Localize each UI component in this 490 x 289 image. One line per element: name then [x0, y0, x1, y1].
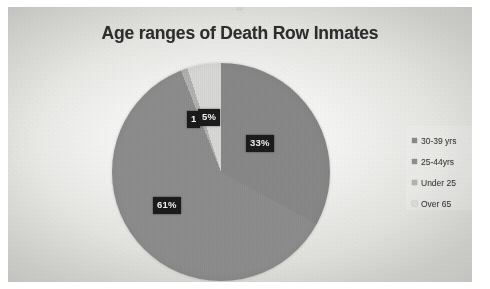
chart-photo: Age ranges of Death Row Inmates 33% 61% … — [8, 7, 472, 282]
chart-legend: 30-39 yrs 25-44yrs Under 25 Over 65 — [406, 126, 472, 210]
legend-swatch-icon — [412, 180, 417, 185]
legend-label: Under 25 — [421, 178, 456, 188]
legend-label: 30-39 yrs — [421, 136, 456, 146]
legend-swatch-icon — [412, 138, 417, 143]
legend-label: Over 65 — [421, 199, 451, 209]
legend-swatch-icon — [412, 201, 417, 206]
legend-item-30-39-yrs[interactable]: 30-39 yrs — [412, 130, 470, 151]
legend-item-under-25[interactable]: Under 25 — [412, 172, 470, 193]
pie-slices — [112, 63, 330, 281]
pie-chart — [112, 63, 330, 281]
data-label-61: 61% — [153, 197, 181, 214]
legend-swatch-icon — [412, 159, 417, 164]
dust-speck — [236, 7, 243, 11]
legend-label: 25-44yrs — [421, 157, 454, 167]
data-label-33: 33% — [246, 135, 274, 152]
legend-item-over-65[interactable]: Over 65 — [412, 193, 470, 214]
legend-item-25-44yrs[interactable]: 25-44yrs — [412, 151, 470, 172]
data-label-5: 5% — [198, 109, 220, 126]
chart-title: Age ranges of Death Row Inmates — [8, 23, 472, 44]
